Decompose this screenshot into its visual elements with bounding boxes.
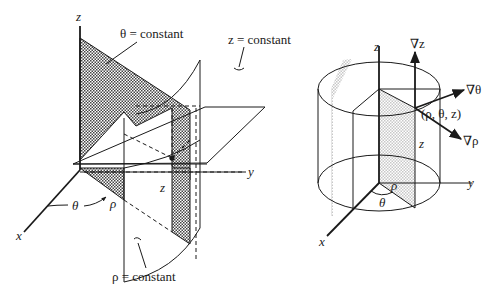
point-label: (ρ, θ, z) xyxy=(421,106,461,121)
left-x-axis-label: x xyxy=(15,228,22,243)
left-y-axis-label: y xyxy=(246,164,254,179)
left-z-label: z xyxy=(159,180,165,195)
theta-constant-plane-lower xyxy=(80,168,124,200)
right-x-axis-label: x xyxy=(318,234,325,249)
left-rho-label: ρ xyxy=(109,196,116,211)
z-constant-label: z = constant xyxy=(228,32,291,47)
grad-z-label: ∇z xyxy=(410,36,425,51)
right-theta-label: θ xyxy=(379,195,386,210)
grad-rho-label: ∇ρ xyxy=(463,133,479,148)
theta-arc xyxy=(48,205,68,206)
left-figure: z x y θ = constant z = constant ρ = cons… xyxy=(15,9,291,284)
cylindrical-coordinates-diagram: z x y θ = constant z = constant ρ = cons… xyxy=(0,0,496,297)
right-figure: z y x ∇z ∇θ ∇ρ (ρ, θ, z) z ρ θ xyxy=(318,36,481,249)
left-z-axis-label: z xyxy=(75,9,81,24)
rho-constant-label: ρ = constant xyxy=(112,269,176,284)
right-z-axis-label: z xyxy=(373,39,379,54)
right-rho-label: ρ xyxy=(390,178,397,193)
grad-theta-label: ∇θ xyxy=(466,82,481,97)
right-z-label: z xyxy=(418,136,424,151)
theta-plane-strip xyxy=(172,168,190,244)
theta-constant-label: θ = constant xyxy=(120,26,184,41)
cylinder-shade-left xyxy=(331,59,352,216)
point-marker xyxy=(169,155,174,160)
right-y-axis-label: y xyxy=(466,175,474,190)
left-theta-label: θ xyxy=(72,198,79,213)
